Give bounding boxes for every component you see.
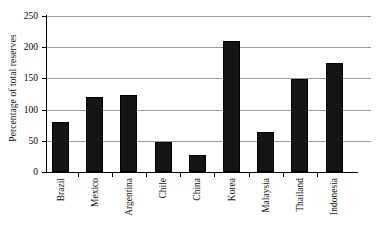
y-tick-label: 250	[24, 11, 38, 21]
x-tick-mark	[317, 173, 318, 177]
gridline	[46, 47, 371, 48]
x-axis-label: Thailand	[294, 178, 306, 224]
gridline	[46, 16, 371, 17]
plot-area	[46, 16, 371, 172]
x-axis-label-text: Indonesia	[329, 178, 339, 215]
x-axis-label: Indonesia	[328, 178, 340, 224]
bar	[86, 97, 103, 172]
y-axis-title-text: Percentage of total reserves	[8, 34, 18, 142]
bar	[52, 122, 69, 172]
x-tick-mark	[180, 173, 181, 177]
bar	[291, 79, 308, 172]
x-axis-label: Chile	[157, 178, 169, 224]
y-axis-title: Percentage of total reserves	[0, 0, 26, 176]
x-axis-label-text: Thailand	[295, 178, 305, 212]
x-axis-label-text: Brazil	[56, 178, 66, 201]
x-axis-label-text: Argentina	[124, 178, 134, 216]
y-tick-mark	[42, 16, 46, 17]
y-tick-mark	[42, 78, 46, 79]
x-axis-label: Mexico	[89, 178, 101, 224]
bar	[257, 132, 274, 172]
bar	[189, 155, 206, 172]
y-tick-mark	[42, 110, 46, 111]
x-axis-label: Korea	[226, 178, 238, 224]
x-tick-mark	[214, 173, 215, 177]
y-tick-mark	[42, 172, 46, 173]
y-tick-label: 150	[24, 73, 38, 83]
x-tick-mark	[249, 173, 250, 177]
bar-chart: Percentage of total reserves 05010015020…	[0, 0, 381, 226]
y-axis-line	[46, 15, 47, 173]
y-tick-label: 50	[29, 136, 39, 146]
x-tick-mark	[283, 173, 284, 177]
bar	[120, 95, 137, 172]
x-tick-mark	[78, 173, 79, 177]
x-tick-mark	[112, 173, 113, 177]
x-tick-mark	[146, 173, 147, 177]
x-axis-label-text: China	[192, 178, 202, 201]
x-axis-label-text: Korea	[227, 178, 237, 201]
x-axis-label: China	[191, 178, 203, 224]
y-tick-label: 0	[33, 167, 38, 177]
y-tick-label: 200	[24, 42, 38, 52]
y-tick-mark	[42, 141, 46, 142]
gridline	[46, 78, 371, 79]
bar	[155, 142, 172, 172]
x-axis-label: Malaysia	[260, 178, 272, 224]
x-axis-label-text: Mexico	[90, 178, 100, 207]
x-axis-line	[46, 172, 358, 173]
bar	[326, 63, 343, 172]
y-tick-mark	[42, 47, 46, 48]
x-axis-label: Argentina	[123, 178, 135, 224]
bar	[223, 41, 240, 172]
x-axis-label: Brazil	[55, 178, 67, 224]
x-axis-label-text: Chile	[158, 178, 168, 199]
y-tick-label: 100	[24, 105, 38, 115]
x-axis-label-text: Malaysia	[261, 178, 271, 213]
